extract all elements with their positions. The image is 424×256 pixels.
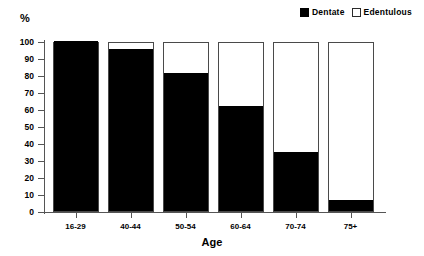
legend-label-edentulous: Edentulous xyxy=(364,7,412,17)
y-axis-tick xyxy=(38,127,44,128)
y-axis-tick xyxy=(38,195,44,196)
y-axis-tick xyxy=(38,212,44,213)
y-axis-tick-label: 0 xyxy=(4,207,34,217)
y-axis-tick-label: 50 xyxy=(4,122,34,132)
y-axis-tick-label: 20 xyxy=(4,173,34,183)
chart-legend: Dentate Edentulous xyxy=(300,7,412,17)
y-axis-tick-label: 10 xyxy=(4,190,34,200)
y-axis-tick-label: 90 xyxy=(4,54,34,64)
x-axis-tick-label: 60-64 xyxy=(230,222,250,231)
x-axis-tick-label: 75+ xyxy=(344,222,358,231)
y-axis-tick-label: 100 xyxy=(4,37,34,47)
y-axis-tick xyxy=(38,42,44,43)
bar-segment-dentate xyxy=(219,106,263,211)
x-axis-tick xyxy=(296,213,297,218)
hollow-square-icon xyxy=(352,8,361,17)
bar-chart: Dentate Edentulous % 0102030405060708090… xyxy=(0,0,424,256)
y-axis-tick-label: 30 xyxy=(4,156,34,166)
y-axis-tick-label: 40 xyxy=(4,139,34,149)
y-axis-unit-label: % xyxy=(20,12,30,24)
bar-segment-dentate xyxy=(329,200,373,211)
x-axis-tick xyxy=(351,213,352,218)
legend-item-edentulous: Edentulous xyxy=(352,7,412,17)
x-axis-tick-label: 40-44 xyxy=(120,222,140,231)
x-axis-title: Age xyxy=(0,236,424,248)
bar-segment-dentate xyxy=(164,73,208,211)
legend-item-dentate: Dentate xyxy=(300,7,345,17)
legend-label-dentate: Dentate xyxy=(312,7,345,17)
x-axis-tick xyxy=(241,213,242,218)
bar-50-54 xyxy=(163,42,209,212)
bar-segment-dentate xyxy=(109,49,153,211)
y-axis-tick-label: 60 xyxy=(4,105,34,115)
y-axis-tick-label: 70 xyxy=(4,88,34,98)
y-axis-line xyxy=(44,40,45,214)
bar-60-64 xyxy=(218,42,264,212)
x-axis-tick-label: 50-54 xyxy=(175,222,195,231)
plot-area xyxy=(48,42,378,212)
y-axis-tick xyxy=(38,59,44,60)
y-axis-tick xyxy=(38,76,44,77)
x-axis-tick-label: 16-29 xyxy=(65,222,85,231)
y-axis-tick xyxy=(38,144,44,145)
x-axis-tick xyxy=(186,213,187,218)
bar-75+ xyxy=(328,42,374,212)
y-axis-tick xyxy=(38,93,44,94)
y-axis-tick xyxy=(38,110,44,111)
x-axis-tick xyxy=(76,213,77,218)
bar-16-29 xyxy=(53,42,99,212)
x-axis-tick-label: 70-74 xyxy=(285,222,305,231)
bar-segment-dentate xyxy=(54,41,98,211)
x-axis-tick xyxy=(131,213,132,218)
y-axis-tick xyxy=(38,161,44,162)
bar-40-44 xyxy=(108,42,154,212)
bar-segment-dentate xyxy=(274,152,318,211)
filled-square-icon xyxy=(300,8,309,17)
y-axis-tick-label: 80 xyxy=(4,71,34,81)
y-axis-tick xyxy=(38,178,44,179)
x-axis-line xyxy=(44,212,386,213)
bar-70-74 xyxy=(273,42,319,212)
